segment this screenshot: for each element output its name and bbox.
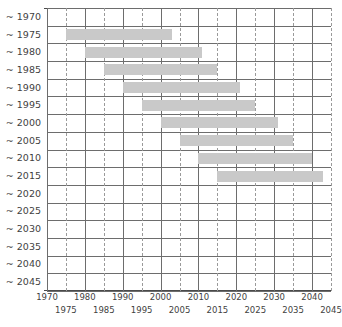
gridline-vertical-major bbox=[274, 8, 275, 291]
gantt-bar bbox=[142, 100, 256, 111]
y-tick-label: ~ 1985 bbox=[6, 65, 41, 75]
gridline-vertical-minor bbox=[66, 8, 67, 291]
y-tick-label: ~ 1975 bbox=[6, 30, 41, 40]
gridline-horizontal bbox=[47, 203, 331, 204]
y-tick-label: ~ 2030 bbox=[6, 224, 41, 234]
gridline-horizontal bbox=[47, 61, 331, 62]
gridline-vertical-major bbox=[236, 8, 237, 291]
gridline-horizontal bbox=[47, 132, 331, 133]
gantt-bar bbox=[104, 64, 218, 75]
gridline-vertical-minor bbox=[331, 8, 332, 291]
x-tick-label-major: 2020 bbox=[226, 293, 248, 302]
gridline-vertical-minor bbox=[255, 8, 256, 291]
plot-area bbox=[47, 8, 331, 291]
y-tick-label: ~ 2035 bbox=[6, 242, 41, 252]
x-tick-label-major: 1980 bbox=[74, 293, 96, 302]
gantt-bar bbox=[66, 29, 172, 40]
y-axis: ~ 1970~ 1975~ 1980~ 1985~ 1990~ 1995~ 20… bbox=[0, 0, 44, 327]
gantt-bar bbox=[198, 153, 312, 164]
x-tick-label-minor: 1985 bbox=[93, 306, 115, 315]
gridline-horizontal bbox=[47, 150, 331, 151]
y-tick-label: ~ 1980 bbox=[6, 47, 41, 57]
gridline-horizontal bbox=[47, 114, 331, 115]
gridline-horizontal bbox=[47, 43, 331, 44]
x-tick-label-major: 2040 bbox=[301, 293, 323, 302]
y-tick-label: ~ 2020 bbox=[6, 189, 41, 199]
x-tick-label-minor: 1995 bbox=[131, 306, 153, 315]
gridline-vertical-minor bbox=[293, 8, 294, 291]
gantt-bar bbox=[161, 117, 278, 128]
x-tick-label-major: 1990 bbox=[112, 293, 134, 302]
y-tick-label: ~ 2015 bbox=[6, 171, 41, 181]
x-tick-label-minor: 2045 bbox=[320, 306, 342, 315]
y-tick-label: ~ 1990 bbox=[6, 83, 41, 93]
x-tick-label-major: 1970 bbox=[36, 293, 58, 302]
x-tick-label-minor: 2015 bbox=[207, 306, 229, 315]
x-axis: 1970198019902000201020202030204019751985… bbox=[47, 291, 331, 327]
gantt-bar bbox=[217, 171, 323, 182]
gridline-horizontal bbox=[47, 96, 331, 97]
gridline-horizontal bbox=[47, 256, 331, 257]
y-tick-label: ~ 2010 bbox=[6, 153, 41, 163]
gantt-bar bbox=[85, 47, 202, 58]
x-tick-label-major: 2010 bbox=[188, 293, 210, 302]
x-tick-label-minor: 2005 bbox=[169, 306, 191, 315]
gridline-horizontal bbox=[47, 167, 331, 168]
gridline-horizontal bbox=[47, 26, 331, 27]
x-tick-label-major: 2000 bbox=[150, 293, 172, 302]
gridline-vertical-major bbox=[47, 8, 48, 291]
gridline-horizontal bbox=[47, 185, 331, 186]
gridline-horizontal bbox=[47, 220, 331, 221]
gridline-horizontal bbox=[47, 8, 331, 9]
y-tick-label: ~ 2025 bbox=[6, 206, 41, 216]
y-tick-label: ~ 2000 bbox=[6, 118, 41, 128]
y-tick-label: ~ 2005 bbox=[6, 136, 41, 146]
gridline-horizontal bbox=[47, 238, 331, 239]
y-tick-label: ~ 1995 bbox=[6, 100, 41, 110]
x-tick-label-minor: 2025 bbox=[244, 306, 266, 315]
gridline-horizontal bbox=[47, 273, 331, 274]
x-tick-label-major: 2030 bbox=[263, 293, 285, 302]
gridline-horizontal bbox=[47, 79, 331, 80]
gantt-bar bbox=[180, 135, 294, 146]
y-tick-label: ~ 2045 bbox=[6, 277, 41, 287]
gridline-vertical-minor bbox=[217, 8, 218, 291]
y-tick-label: ~ 1970 bbox=[6, 12, 41, 22]
gantt-bar bbox=[123, 82, 240, 93]
x-tick-label-minor: 1975 bbox=[55, 306, 77, 315]
x-tick-label-minor: 2035 bbox=[282, 306, 304, 315]
y-tick-label: ~ 2040 bbox=[6, 259, 41, 269]
gridline-vertical-major bbox=[312, 8, 313, 291]
